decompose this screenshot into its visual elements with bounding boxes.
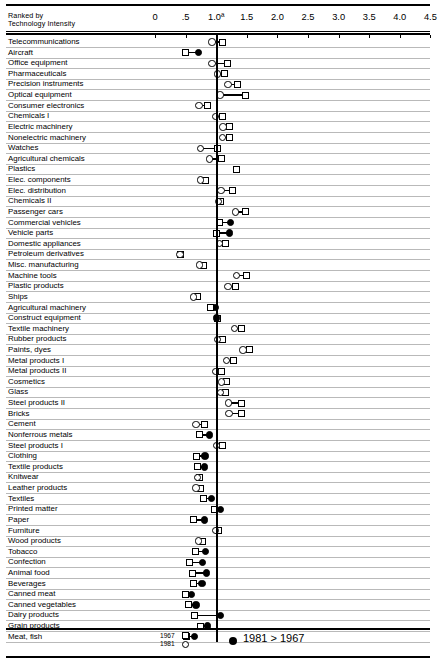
chart-row: Tobacco [6, 547, 430, 558]
marker-1981-filled [203, 569, 210, 576]
row-label: Consumer electronics [8, 101, 84, 111]
marker-1981-open [197, 176, 204, 183]
x-tick-label-4.0: 4.0 [385, 12, 415, 22]
marker-1967 [219, 39, 226, 46]
chart-row: Elec. distribution [6, 186, 430, 197]
chart-row: Electric machinery [6, 122, 430, 133]
marker-1967 [200, 495, 207, 502]
marker-1967 [192, 548, 199, 555]
row-label: Agricultural machinery [8, 303, 86, 313]
marker-1967 [233, 166, 240, 173]
marker-1967 [207, 304, 214, 311]
chart-row: Aircraft [6, 48, 430, 59]
marker-1967 [221, 70, 228, 77]
marker-1967 [238, 400, 245, 407]
legend-circle-marker-icon [182, 641, 189, 648]
marker-1967 [234, 81, 241, 88]
marker-1981-open [224, 283, 231, 290]
marker-1981-filled [226, 229, 233, 236]
plot-area: TelecommunicationsAircraftOffice equipme… [6, 35, 430, 627]
chart-row: Rubber products [6, 334, 430, 345]
row-label: Commercial vehicles [8, 218, 81, 228]
marker-1967 [232, 283, 239, 290]
row-label: Electric machinery [8, 122, 72, 132]
marker-1981-open [224, 81, 231, 88]
marker-1981-open [232, 208, 239, 215]
chart-row: Canned vegetables [6, 600, 430, 611]
row-label: Cosmetics [8, 377, 45, 387]
legend-year-1967: 1967 [160, 632, 175, 639]
marker-1967 [222, 240, 229, 247]
row-label: Precision instruments [8, 79, 83, 89]
marker-1981-filled [206, 431, 213, 438]
marker-1967 [229, 187, 236, 194]
chart-row: Chemicals I [6, 111, 430, 122]
marker-1981-filled [198, 580, 205, 587]
row-label: Ships [8, 292, 28, 302]
row-label: Knitwear [8, 472, 39, 482]
row-label: Cement [8, 419, 36, 429]
x-tick-label-0: 0 [140, 12, 170, 22]
row-label: Bricks [8, 409, 29, 419]
marker-1967 [238, 410, 245, 417]
marker-1981-open [192, 484, 199, 491]
row-label: Domestic appliances [8, 239, 81, 249]
chart-row: Wood products [6, 536, 430, 547]
marker-1981-filled [195, 49, 202, 56]
row-label: Paints, dyes [8, 345, 51, 355]
x-tick-label-2.5: 2.5 [293, 12, 323, 22]
x-tick-label-4.5: 4.5 [415, 12, 442, 22]
chart-row: Elec. components [6, 175, 430, 186]
marker-1981-filled [192, 601, 199, 608]
row-label: Rubber products [8, 334, 66, 344]
marker-1967 [242, 92, 249, 99]
row-label: Elec. distribution [8, 186, 66, 196]
chart-row: Ships [6, 292, 430, 303]
bottom-rule [6, 656, 430, 658]
row-label: Steel products I [8, 441, 63, 451]
legend-square-marker-icon [182, 632, 189, 639]
chart-row: Bricks [6, 409, 430, 420]
marker-1981-open [194, 474, 201, 481]
row-label: Optical equipment [8, 90, 72, 100]
marker-1981-open [196, 261, 203, 268]
chart-row: Pharmaceuticals [6, 69, 430, 80]
row-label: Nonferrous metals [8, 430, 72, 440]
row-label: Wood products [8, 536, 61, 546]
row-label: Machine tools [8, 271, 57, 281]
marker-1967 [194, 463, 201, 470]
chart-row: Steel products II [6, 398, 430, 409]
marker-1981-filled [208, 495, 215, 502]
marker-1981-open [206, 155, 213, 162]
marker-1967 [182, 49, 189, 56]
marker-1967 [189, 570, 196, 577]
marker-1967 [191, 612, 198, 619]
row-header-label: Ranked by Technology Intensity [8, 12, 128, 29]
row-label: Telecommunications [8, 37, 80, 47]
marker-1981-open [176, 251, 183, 258]
x-tick-label-1.0: 1.0ª [201, 12, 231, 22]
row-label: Dairy products [8, 610, 59, 620]
chart-row: Office equipment [6, 58, 430, 69]
row-label: Nonelectric machinery [8, 133, 86, 143]
row-label: Metal products II [8, 366, 66, 376]
marker-1981-open [225, 399, 232, 406]
marker-1981-open [217, 187, 224, 194]
chart-row: Textiles [6, 494, 430, 505]
row-label: Vehicle parts [8, 228, 53, 238]
row-label: Pharmaceuticals [8, 69, 66, 79]
marker-1967 [186, 559, 193, 566]
marker-1981-filled [201, 516, 208, 523]
chart-row: Plastic products [6, 281, 430, 292]
chart-row: Precision instruments [6, 79, 430, 90]
chart-row: Knitwear [6, 472, 430, 483]
chart-row: Leather products [6, 483, 430, 494]
row-label: Textiles [8, 494, 34, 504]
chart-row: Cosmetics [6, 377, 430, 388]
marker-1967 [230, 357, 237, 364]
row-label: Chemicals I [8, 111, 49, 121]
legend-filled-circle-icon [229, 637, 237, 645]
marker-1981-open [218, 378, 225, 385]
chart-row: Nonferrous metals [6, 430, 430, 441]
